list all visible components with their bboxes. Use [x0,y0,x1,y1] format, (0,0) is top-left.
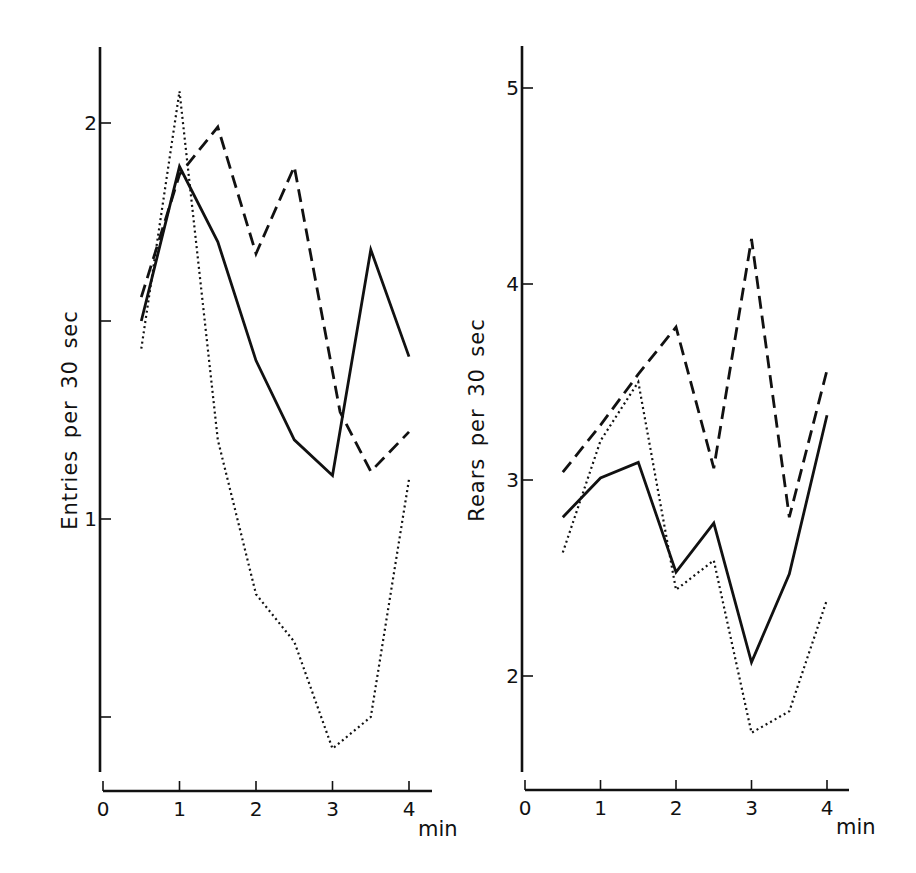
y-tick-label: 2 [84,111,97,135]
x-tick-label: 2 [670,796,683,820]
x-axis-unit-label: min [418,817,458,841]
x-tick-label: 0 [519,796,532,820]
series-dashed-line [141,127,409,472]
y-axis-title: Rears per 30 sec [465,318,489,522]
x-tick-label: 3 [745,796,758,820]
x-tick-label: 1 [594,796,607,820]
x-tick-label: 1 [173,797,186,821]
series-dashed-line [563,239,827,517]
y-tick-label: 1 [84,507,97,531]
y-axis-title: Entries per 30 sec [58,310,82,530]
y-tick-label: 3 [506,468,519,492]
x-tick-label: 4 [403,797,416,821]
x-tick-label: 0 [97,797,110,821]
y-tick-label: 2 [506,664,519,688]
series-solid-line [563,415,827,662]
figure: 1201234minEntries per 30 sec 234501234mi… [0,0,916,873]
x-tick-label: 2 [250,797,263,821]
y-tick-label: 4 [506,272,519,296]
series-dotted-line [563,382,827,733]
entries-chart-panel: 1201234minEntries per 30 sec [58,47,458,841]
rears-chart-panel: 234501234minRears per 30 sec [465,46,876,839]
series-dotted-line [141,91,409,748]
x-tick-label: 3 [326,797,339,821]
x-tick-label: 4 [821,796,834,820]
x-axis-unit-label: min [836,815,876,839]
y-tick-label: 5 [506,76,519,100]
